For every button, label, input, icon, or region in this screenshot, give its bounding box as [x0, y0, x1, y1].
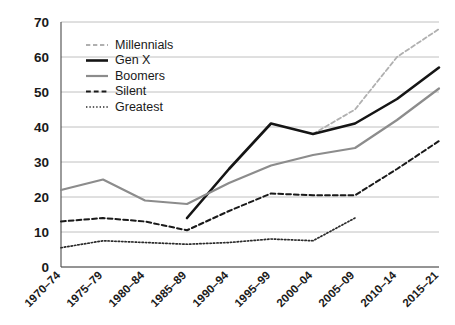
x-axis-tick-label: 2010–14 — [358, 269, 399, 310]
y-axis-tick-label: 40 — [34, 120, 49, 135]
legend-label-millennials: Millennials — [115, 38, 173, 52]
x-axis-tick-labels: 1970–741975–791980–841985–891990–941995–… — [22, 269, 441, 310]
x-axis-tick-label: 2005–09 — [316, 269, 356, 309]
x-axis-tick-label: 1980–84 — [106, 269, 147, 310]
x-axis-tick-label: 1995–99 — [232, 269, 272, 309]
chart-container: 010203040506070 1970–741975–791980–84198… — [0, 0, 455, 325]
x-axis-tick-label: 1990–94 — [190, 269, 231, 310]
y-axis-tick-label: 0 — [41, 260, 49, 275]
x-axis-tick-label: 1975–79 — [64, 269, 104, 309]
y-axis-tick-label: 60 — [34, 50, 49, 65]
y-axis-tick-label: 50 — [34, 85, 49, 100]
chart-legend: MillennialsGen XBoomersSilentGreatest — [86, 38, 173, 114]
x-axis-tick-label: 1970–74 — [22, 269, 63, 310]
x-axis-tick-label: 2000–04 — [274, 269, 315, 310]
y-axis-tick-label: 70 — [34, 15, 49, 30]
y-axis-tick-label: 20 — [34, 190, 49, 205]
legend-label-gen-x: Gen X — [115, 53, 151, 67]
series-line-greatest — [61, 218, 355, 248]
x-axis-tick-label: 2015–21 — [400, 269, 441, 310]
legend-label-greatest: Greatest — [115, 100, 163, 114]
x-axis-tick-label: 1985–89 — [148, 269, 188, 309]
y-axis-tick-label: 30 — [34, 155, 49, 170]
y-axis-tick-labels: 010203040506070 — [34, 15, 49, 275]
legend-label-boomers: Boomers — [115, 69, 165, 83]
line-chart: 010203040506070 1970–741975–791980–84198… — [0, 0, 455, 325]
y-axis-tick-label: 10 — [34, 225, 49, 240]
legend-label-silent: Silent — [115, 84, 147, 98]
